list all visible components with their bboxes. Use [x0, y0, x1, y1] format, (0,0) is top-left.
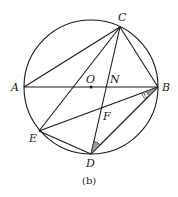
angle-ebd-arc-outer	[142, 93, 146, 99]
label-a: A	[10, 81, 19, 94]
segment-eb	[39, 87, 158, 131]
label-b: B	[161, 81, 170, 94]
geometry-figure: C A B O N F E D (b)	[0, 0, 178, 197]
segment-ac	[24, 27, 120, 87]
segment-cb	[120, 27, 158, 87]
angle-cdb-shade	[91, 141, 100, 154]
figure-caption: (b)	[82, 175, 96, 186]
label-o: O	[86, 73, 95, 86]
segment-ed	[39, 131, 91, 154]
label-c: C	[118, 11, 127, 24]
label-f: F	[102, 110, 111, 123]
label-d: D	[85, 157, 95, 170]
label-e: E	[28, 132, 37, 145]
segment-db	[91, 87, 158, 154]
angle-ebd-shade	[146, 87, 158, 96]
label-n: N	[109, 73, 120, 86]
